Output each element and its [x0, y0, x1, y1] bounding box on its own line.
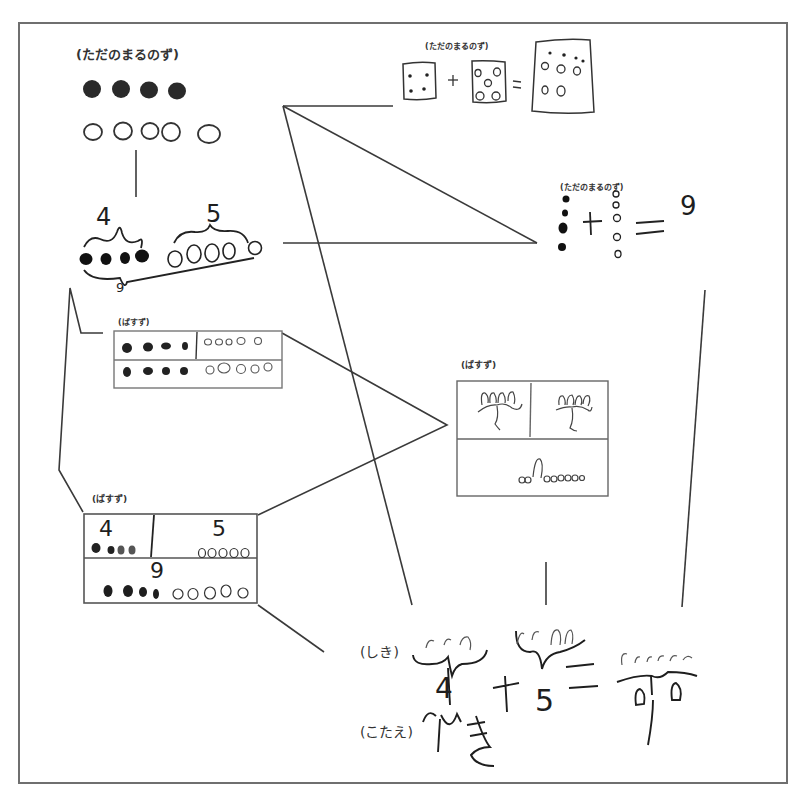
worksheet-canvas: (ただのまるのず) 4 5 9 [0, 0, 805, 800]
equation-left-number: 4 [435, 672, 453, 705]
equation-figure [0, 0, 805, 800]
equation-right-number: 5 [535, 683, 554, 718]
